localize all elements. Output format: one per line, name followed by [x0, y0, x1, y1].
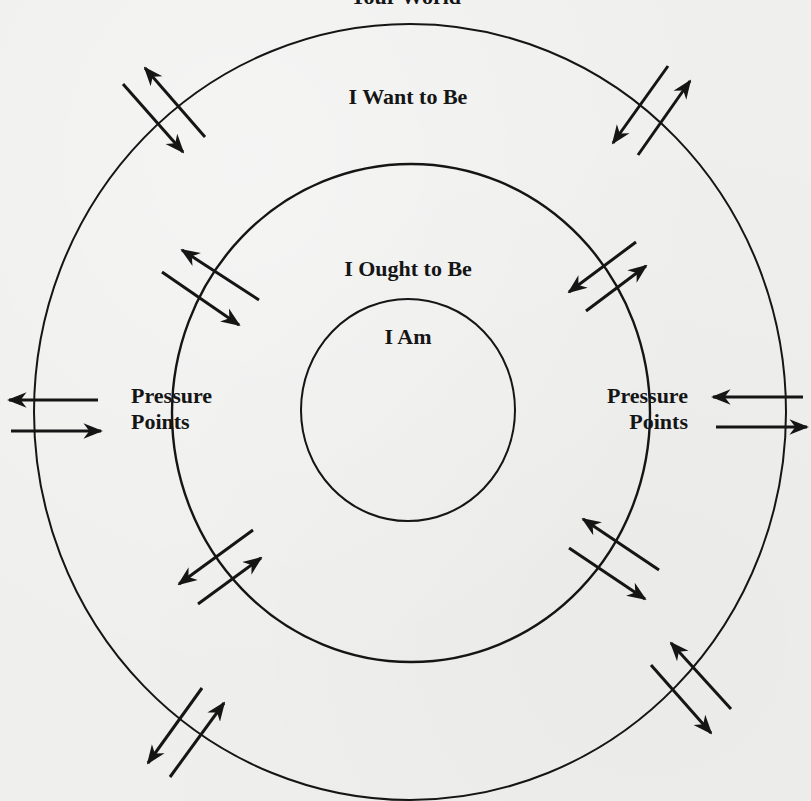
- arrow-pair-outer-left: [9, 400, 101, 431]
- diagram-canvas: Your World I Want to Be I Ought to Be I …: [0, 0, 811, 801]
- pressure-points-right-line2: Points: [593, 409, 688, 435]
- arrow-pair-outer-right: [713, 397, 807, 427]
- pressure-points-left-line1: Pressure: [131, 383, 212, 409]
- diagram-title: Your World: [0, 0, 811, 8]
- arrow-pair-middle-bottom-left: [179, 530, 261, 604]
- arrow-pair-outer-top-left: [123, 68, 205, 152]
- ring-label-i-am: I Am: [0, 326, 811, 348]
- pressure-points-right-line1: Pressure: [593, 383, 688, 409]
- ring-label-i-ought-to-be: I Ought to Be: [0, 258, 811, 280]
- middle-circle-ought: [172, 164, 650, 662]
- concentric-circles-diagram: [0, 0, 811, 801]
- ring-label-i-want-to-be: I Want to Be: [0, 86, 811, 108]
- arrow-pair-outer-bottom-right: [651, 643, 731, 733]
- pressure-points-left-line2: Points: [131, 409, 212, 435]
- pressure-points-left-label: Pressure Points: [131, 383, 212, 435]
- pressure-points-right-label: Pressure Points: [593, 383, 688, 435]
